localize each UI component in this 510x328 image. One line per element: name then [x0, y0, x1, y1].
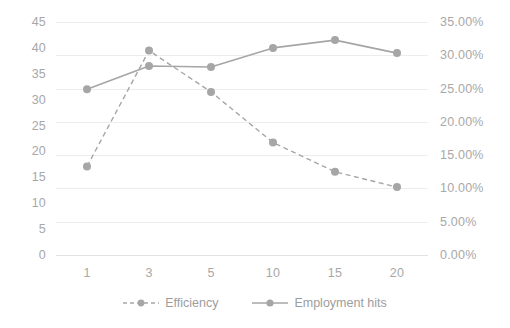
y-axis-right-tick: 15.00% [440, 149, 484, 162]
gridline [56, 222, 428, 223]
series-employment-hits [83, 36, 401, 93]
data-point-marker [269, 44, 277, 52]
axis-baseline [56, 255, 428, 256]
y-axis-left-tick: 5 [8, 223, 46, 236]
x-axis-tick: 5 [186, 267, 236, 280]
data-point-marker [145, 62, 153, 70]
x-axis-tick: 20 [372, 267, 422, 280]
y-axis-left-tick: 0 [8, 249, 46, 262]
gridline [56, 22, 428, 23]
y-axis-right-tick: 35.00% [440, 16, 484, 29]
gridline [56, 55, 428, 56]
chart-container: 051015202530354045 0.00%5.00%10.00%15.00… [0, 0, 510, 328]
y-axis-right-tick: 30.00% [440, 49, 484, 62]
y-axis-left-tick: 15 [8, 171, 46, 184]
chart-legend: Efficiency Employment hits [0, 296, 510, 310]
y-axis-right-tick: 5.00% [440, 216, 476, 229]
y-axis-right-tick: 0.00% [440, 249, 476, 262]
gridline [56, 155, 428, 156]
gridline [56, 188, 428, 189]
x-axis-tick: 10 [248, 267, 298, 280]
series-line [87, 40, 397, 89]
solid-line-marker-icon [252, 297, 288, 309]
legend-item-efficiency[interactable]: Efficiency [123, 296, 218, 310]
legend-label-employment-hits: Employment hits [294, 296, 386, 310]
y-axis-left-tick: 20 [8, 145, 46, 158]
y-axis-right-tick: 20.00% [440, 116, 484, 129]
x-axis-tick: 1 [62, 267, 112, 280]
data-point-marker [331, 36, 339, 44]
dashed-line-marker-icon [123, 297, 159, 309]
y-axis-left-tick: 25 [8, 120, 46, 133]
y-axis-left-tick: 10 [8, 197, 46, 210]
data-point-marker [331, 168, 339, 176]
y-axis-left-tick: 40 [8, 42, 46, 55]
data-point-marker [269, 139, 277, 147]
legend-label-efficiency: Efficiency [165, 296, 218, 310]
gridline [56, 89, 428, 90]
y-axis-left-tick: 45 [8, 16, 46, 29]
y-axis-right-tick: 10.00% [440, 182, 484, 195]
data-point-marker [145, 47, 153, 55]
y-axis-left-tick: 30 [8, 94, 46, 107]
legend-item-employment-hits[interactable]: Employment hits [252, 296, 386, 310]
x-axis-tick: 3 [124, 267, 174, 280]
gridline [56, 122, 428, 123]
series-line [87, 51, 397, 188]
data-point-marker [83, 163, 91, 171]
series-efficiency [83, 47, 401, 192]
y-axis-right-tick: 25.00% [440, 83, 484, 96]
x-axis-tick: 15 [310, 267, 360, 280]
y-axis-left-tick: 35 [8, 68, 46, 81]
data-point-marker [207, 63, 215, 71]
